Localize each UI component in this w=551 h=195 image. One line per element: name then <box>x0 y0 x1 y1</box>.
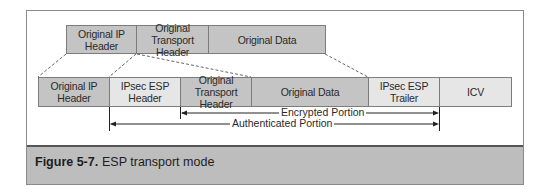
figure-title: ESP transport mode <box>102 155 214 169</box>
figure-caption: Figure 5-7. ESP transport mode <box>27 145 523 184</box>
figure-number: Figure 5-7. <box>35 155 98 169</box>
authenticated-portion-label: Authenticated Portion <box>230 118 334 129</box>
